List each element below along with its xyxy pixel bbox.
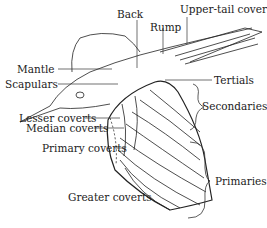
label-back: Back (117, 9, 143, 20)
bird-eye (76, 92, 84, 98)
label-median-coverts: Median coverts (26, 123, 108, 134)
label-scapulars: Scapulars (5, 79, 58, 90)
label-tertials: Tertials (214, 75, 254, 86)
label-rump: Rump (150, 22, 181, 33)
label-upper-tail-coverts: Upper-tail coverts (180, 4, 267, 15)
label-greater-coverts: Greater coverts (68, 192, 152, 203)
label-primary-coverts: Primary coverts (42, 143, 127, 154)
label-primaries: Primaries (215, 176, 267, 187)
label-mantle: Mantle (17, 64, 55, 75)
bird-head-outline (50, 28, 252, 106)
label-secondaries: Secondaries (202, 101, 267, 112)
